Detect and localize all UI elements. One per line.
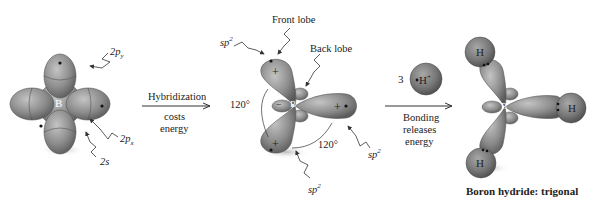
sp2-label-bottom: sp2: [308, 183, 321, 195]
releases-label: releases: [403, 125, 436, 136]
hydrogen-label-bottom: H: [476, 158, 484, 169]
label-2s: 2s: [100, 157, 109, 168]
diagram-canvas: [0, 0, 604, 205]
energy-label-1: energy: [160, 124, 188, 135]
angle-bottom-label: 120°: [318, 140, 338, 151]
back-lobe-label: Back lobe: [310, 44, 352, 55]
product-caption: Boron hydride: trigonal: [466, 186, 578, 197]
reagent-count: 3: [398, 74, 404, 85]
hybrid-center-label: B: [290, 100, 296, 109]
front-lobe-label: Front lobe: [272, 15, 315, 26]
sp2-label-top: sp2: [220, 36, 233, 48]
bonding-label: Bonding: [403, 113, 439, 124]
reagent-hydrogen-ion: H+: [419, 74, 431, 86]
sp2-label-right: sp2: [368, 148, 381, 160]
label-2px: 2px: [120, 134, 134, 147]
minus-sign-left: −: [276, 100, 282, 110]
angle-left-label: 120°: [230, 100, 250, 111]
plus-sign-bottom: +: [272, 138, 279, 150]
plus-sign-top: +: [272, 66, 279, 78]
hybridization-label: Hybridization: [148, 92, 206, 103]
energy-label-2: energy: [405, 137, 433, 148]
boron-center-label: B: [55, 98, 62, 109]
hydrogen-label-top: H: [476, 47, 484, 58]
costs-label: costs: [164, 112, 185, 123]
label-2py: 2py: [110, 47, 124, 60]
hydrogen-label-right: H: [568, 103, 576, 114]
product-center-label: B: [501, 102, 507, 111]
plus-sign-right: +: [334, 101, 341, 113]
